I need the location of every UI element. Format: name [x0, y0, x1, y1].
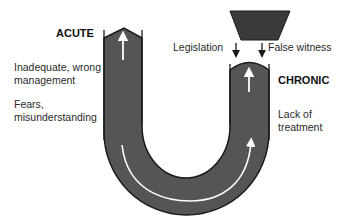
fears-line-2: misunderstanding — [14, 111, 97, 124]
lack-line-1: Lack of — [278, 108, 322, 121]
lack-line-2: treatment — [278, 121, 322, 134]
inadequate-line-1: Inadequate, wrong — [14, 61, 101, 74]
weight-block — [230, 11, 290, 40]
false-witness-label: False witness — [268, 41, 332, 54]
chronic-label: CHRONIC — [278, 74, 329, 87]
acute-label: ACUTE — [56, 27, 94, 40]
inadequate-management-label: Inadequate, wrong management — [14, 61, 101, 86]
u-tube — [104, 28, 269, 215]
lack-of-treatment-label: Lack of treatment — [278, 108, 322, 133]
legislation-label: Legislation — [173, 41, 223, 54]
inadequate-line-2: management — [14, 74, 101, 87]
fears-label: Fears, misunderstanding — [14, 98, 97, 123]
fears-line-1: Fears, — [14, 98, 97, 111]
